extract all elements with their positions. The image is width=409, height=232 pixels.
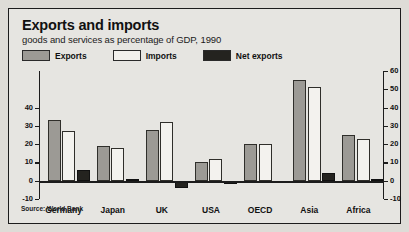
legend-label: Exports bbox=[55, 51, 87, 61]
bar-group: UK bbox=[137, 71, 186, 199]
axis-tick bbox=[35, 126, 39, 127]
page-title: Exports and imports bbox=[22, 17, 221, 33]
axis-tick bbox=[384, 144, 388, 145]
bars bbox=[137, 71, 186, 199]
x-axis-category-label: Africa bbox=[334, 205, 383, 215]
bar-imports bbox=[209, 159, 222, 181]
axis-tick bbox=[384, 89, 388, 90]
x-axis-category-label: UK bbox=[137, 205, 186, 215]
y-axis-left-tick-label: -10 bbox=[22, 195, 33, 203]
axis-tick bbox=[384, 162, 388, 163]
bar-exports bbox=[195, 162, 208, 180]
bar-exports bbox=[146, 130, 159, 181]
y-axis-right-tick-label: 30 bbox=[390, 122, 398, 130]
axis-tick bbox=[35, 108, 39, 109]
y-axis-left-tick-label: 30 bbox=[25, 122, 33, 130]
bar-groups: GermanyJapanUKUSAOECDAsiaAfrica bbox=[39, 71, 383, 199]
axis-tick bbox=[384, 71, 388, 72]
legend-label: Net exports bbox=[236, 51, 283, 61]
legend-item-net-exports: Net exports bbox=[203, 50, 283, 61]
y-axis-right-tick-label: 60 bbox=[390, 67, 398, 75]
bar-exports bbox=[293, 80, 306, 181]
legend-item-exports: Exports bbox=[22, 50, 87, 61]
plot-area: GermanyJapanUKUSAOECDAsiaAfrica 40302010… bbox=[39, 71, 383, 199]
bars bbox=[88, 71, 137, 199]
axis-tick bbox=[384, 126, 388, 127]
y-axis-right-tick-label: 50 bbox=[390, 85, 398, 93]
y-axis-right-tick-label: 40 bbox=[390, 104, 398, 112]
bars bbox=[186, 71, 235, 199]
bars bbox=[236, 71, 285, 199]
legend-label: Imports bbox=[146, 51, 177, 61]
legend-swatch-icon bbox=[22, 50, 50, 61]
bar-group: Africa bbox=[334, 71, 383, 199]
x-axis-category-label: Japan bbox=[88, 205, 137, 215]
y-axis-right-tick-label: -10 bbox=[390, 195, 401, 203]
bar-imports bbox=[357, 139, 370, 181]
legend-swatch-icon bbox=[203, 50, 231, 61]
source-note: Source: World Bank bbox=[21, 205, 83, 212]
bar-group: USA bbox=[186, 71, 235, 199]
axis-tick bbox=[35, 144, 39, 145]
legend-swatch-icon bbox=[113, 50, 141, 61]
bar-exports bbox=[244, 144, 257, 181]
x-axis-category-label: Asia bbox=[285, 205, 334, 215]
y-axis-left-tick-label: 10 bbox=[25, 158, 33, 166]
bar-imports bbox=[62, 131, 75, 180]
axis-tick bbox=[384, 199, 388, 200]
bar-exports bbox=[97, 146, 110, 181]
title-block: Exports and imports goods and services a… bbox=[22, 17, 221, 45]
chart-subtitle: goods and services as percentage of GDP,… bbox=[22, 34, 221, 45]
bar-group: Germany bbox=[39, 71, 88, 199]
bars bbox=[334, 71, 383, 199]
bar-imports bbox=[308, 87, 321, 180]
bar-exports bbox=[48, 120, 61, 180]
bars bbox=[285, 71, 334, 199]
axis-tick bbox=[35, 181, 39, 182]
axis-tick bbox=[35, 199, 39, 200]
y-axis-right-tick-label: 20 bbox=[390, 140, 398, 148]
bars bbox=[39, 71, 88, 199]
y-axis-left-tick-label: 40 bbox=[25, 104, 33, 112]
bar-imports bbox=[259, 144, 272, 181]
bar-group: OECD bbox=[236, 71, 285, 199]
bar-group: Asia bbox=[285, 71, 334, 199]
legend-item-imports: Imports bbox=[113, 50, 177, 61]
zero-baseline bbox=[39, 181, 383, 183]
y-axis-right-tick-label: 0 bbox=[390, 177, 394, 185]
axis-line bbox=[39, 71, 40, 199]
chart-page: Exports and imports goods and services a… bbox=[0, 0, 409, 232]
y-axis-left-tick-label: 0 bbox=[29, 177, 33, 185]
bar-imports bbox=[111, 148, 124, 181]
axis-tick bbox=[384, 108, 388, 109]
bar-group: Japan bbox=[88, 71, 137, 199]
chart-frame: Exports and imports goods and services a… bbox=[8, 8, 401, 224]
axis-tick bbox=[384, 181, 388, 182]
y-axis-right-tick-label: 10 bbox=[390, 158, 398, 166]
axis-tick bbox=[35, 162, 39, 163]
y-axis-left-tick-label: 20 bbox=[25, 140, 33, 148]
bar-imports bbox=[160, 122, 173, 181]
x-axis-category-label: USA bbox=[186, 205, 235, 215]
chart-legend: Exports Imports Net exports bbox=[22, 50, 283, 61]
bar-exports bbox=[342, 135, 355, 181]
x-axis-category-label: OECD bbox=[236, 205, 285, 215]
